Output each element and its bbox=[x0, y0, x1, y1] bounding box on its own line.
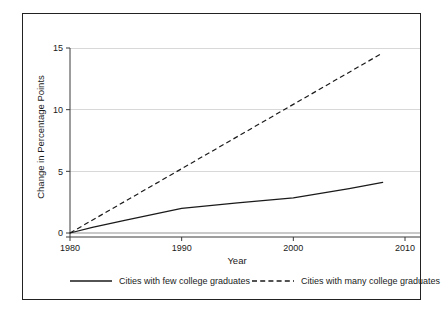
chart-legend: Cities with few college graduatesCities … bbox=[70, 276, 441, 286]
x-tick-label: 1990 bbox=[172, 243, 192, 253]
series-line-0 bbox=[70, 182, 383, 233]
chart-figure: 051015 1980199020002010 Change in Percen… bbox=[0, 0, 441, 315]
x-tick-label: 2000 bbox=[283, 243, 303, 253]
x-tick-label: 2010 bbox=[395, 243, 415, 253]
y-tick-marks bbox=[66, 48, 70, 233]
x-tick-labels: 1980199020002010 bbox=[60, 243, 415, 253]
y-tick-label: 10 bbox=[53, 105, 63, 115]
y-tick-label: 15 bbox=[53, 43, 63, 53]
x-tick-marks bbox=[70, 237, 405, 241]
y-axis-title: Change in Percentage Points bbox=[35, 75, 46, 199]
y-tick-labels: 051015 bbox=[53, 43, 63, 238]
y-tick-label: 5 bbox=[58, 167, 63, 177]
legend-label-1: Cities with many college graduates bbox=[301, 276, 441, 286]
gridlines-group bbox=[70, 48, 420, 171]
series-line-1 bbox=[70, 53, 383, 233]
line-chart: 051015 1980199020002010 Change in Percen… bbox=[0, 0, 441, 315]
legend-label-0: Cities with few college graduates bbox=[119, 276, 251, 286]
x-tick-label: 1980 bbox=[60, 243, 80, 253]
data-series-group bbox=[70, 53, 383, 233]
y-tick-label: 0 bbox=[58, 228, 63, 238]
x-axis-title: Year bbox=[227, 255, 246, 266]
